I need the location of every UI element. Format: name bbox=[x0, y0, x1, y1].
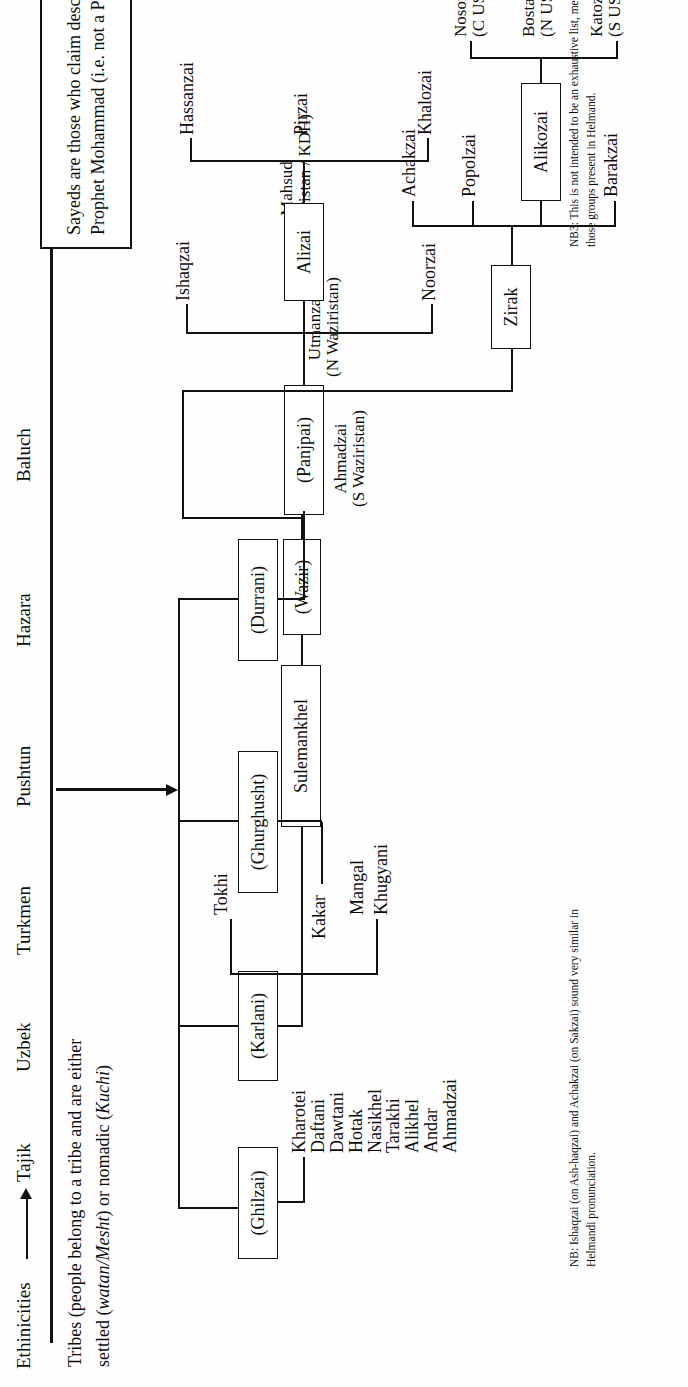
panjpai-bracket bbox=[186, 333, 432, 335]
alizai-out bbox=[303, 161, 305, 203]
node-ghurghusht-label: (Ghurghusht) bbox=[248, 774, 269, 871]
ethnicity-pushtun: Pushtun bbox=[14, 746, 34, 807]
leaf-andar: Andar bbox=[422, 1079, 441, 1153]
alikozai-child-katozai-note: (S USV) bbox=[606, 0, 624, 37]
ethnicities-arrow-line bbox=[26, 1197, 28, 1259]
leaf-tarakhi: Tarakhi bbox=[384, 1079, 403, 1153]
ghurghusht-arm bbox=[321, 822, 323, 884]
node-zirak[interactable]: Zirak bbox=[491, 265, 531, 349]
tribes-caption-end: ) bbox=[93, 1065, 113, 1071]
node-alizai-label: Alizai bbox=[294, 230, 315, 274]
leaf-noorzai: Noorzai bbox=[420, 243, 439, 301]
node-durrani[interactable]: (Durrani) bbox=[238, 539, 278, 661]
footnote-nb3-line2: those groups present in Helmand. bbox=[583, 0, 600, 247]
wazir-child-ahmadzai-name: Ahmadzai bbox=[332, 410, 350, 507]
footnote-nb3: NB3: This is not intended to be an exhau… bbox=[566, 0, 599, 247]
footnote-nb3-line1: NB3: This is not intended to be an exhau… bbox=[566, 0, 583, 247]
node-wazir-label: (Wazir) bbox=[292, 560, 313, 615]
ghilzai-children-list: Kharotei Daftani Dawtani Hotak Nasikhel … bbox=[290, 1079, 460, 1153]
node-zirak-label: Zirak bbox=[501, 288, 522, 327]
karlani-right-arm bbox=[230, 919, 232, 975]
node-wazir[interactable]: (Wazir) bbox=[283, 539, 321, 635]
ghurghusht-drop bbox=[278, 821, 322, 823]
zirak-feed-drop bbox=[182, 391, 512, 393]
alizai-bracket bbox=[190, 161, 428, 163]
leaf-dawtani: Dawtani bbox=[328, 1079, 347, 1153]
durrani-bus bbox=[303, 518, 305, 600]
karlani-right-tick bbox=[230, 974, 302, 976]
footnote-nb-line2: Helmandi pronunciation. bbox=[583, 909, 600, 1267]
zirak-feed bbox=[182, 391, 184, 519]
trunk-drop-ghurghusht bbox=[178, 821, 238, 823]
node-panjpai-label: (Panjpai) bbox=[294, 417, 315, 483]
leaf-pirzai: Pirzai bbox=[292, 93, 311, 135]
node-karlani[interactable]: (Karlani) bbox=[238, 971, 278, 1081]
footnote-nb: NB: Ishaqzai (on Ash-haqzai) and Achakza… bbox=[566, 909, 599, 1267]
node-ghurghusht[interactable]: (Ghurghusht) bbox=[238, 751, 278, 893]
leaf-kharotei: Kharotei bbox=[290, 1079, 309, 1153]
leaf-tokhi: Tokhi bbox=[212, 873, 231, 915]
leaf-mangal: Mangal bbox=[348, 860, 367, 915]
sayeds-note-line1: Sayeds are those who claim descent from … bbox=[65, 0, 84, 235]
leaf-ishaqzai: Ishaqzai bbox=[174, 241, 193, 301]
ethnicity-baluch: Baluch bbox=[14, 428, 34, 482]
alizai-arm-top bbox=[190, 138, 192, 162]
node-alikozai-label: Alikozai bbox=[531, 111, 552, 173]
karlani-left-tick bbox=[301, 974, 377, 976]
durrani-split bbox=[182, 518, 304, 520]
karlani-left-arm bbox=[376, 919, 378, 975]
alikozai-child-nosozai-note: (C USV) bbox=[470, 0, 488, 37]
wazir-child-utmanzai-note: (N Waziristan) bbox=[324, 277, 342, 377]
pushtun-root-arrow-line bbox=[56, 788, 168, 791]
trunk-drop-ghilzai bbox=[178, 1208, 238, 1210]
zirak-arm-achakzai bbox=[412, 201, 414, 227]
panjpai-arm-top bbox=[186, 304, 188, 334]
ethnicity-turkmen: Turkmen bbox=[14, 886, 34, 955]
leaf-khugyani: Khugyani bbox=[372, 844, 391, 915]
wazir-child-ahmadzai: Ahmadzai (S Waziristan) bbox=[332, 410, 368, 507]
node-alikozai[interactable]: Alikozai bbox=[521, 83, 561, 201]
node-ghilzai-label: (Ghilzai) bbox=[248, 1171, 269, 1236]
node-panjpai[interactable]: (Panjpai) bbox=[284, 385, 324, 515]
leaf-ahmadzai-ghilzai: Ahmadzai bbox=[441, 1079, 460, 1153]
zirak-arm-popolzai bbox=[472, 201, 474, 227]
leaf-barakzai: Barakzai bbox=[602, 133, 621, 197]
leaf-popolzai: Popolzai bbox=[460, 134, 479, 197]
alikozai-child-nosozai: Nosozai (C USV) bbox=[452, 0, 488, 37]
leaf-hassanzai: Hassanzai bbox=[178, 62, 197, 135]
tribes-caption-watan: watan/Mesht bbox=[93, 1217, 113, 1310]
node-ghilzai[interactable]: (Ghilzai) bbox=[238, 1147, 278, 1259]
tribes-caption-settled: settled ( bbox=[93, 1310, 113, 1367]
alikozai-child-bostanzai-name: Bostanzai bbox=[520, 0, 538, 37]
trunk-drop-karlani bbox=[178, 1026, 238, 1028]
trunk-drop-durrani bbox=[178, 599, 238, 601]
sayeds-note-line2: Prophet Mohammad (i.e. not a Pushtun tri… bbox=[89, 0, 108, 235]
zirak-in bbox=[511, 348, 513, 392]
node-sulemankhel-label: Sulemankhel bbox=[291, 699, 312, 793]
panjpai-arm-bottom bbox=[431, 304, 433, 334]
alizai-in bbox=[303, 300, 305, 334]
alikozai-arm-top bbox=[470, 41, 472, 59]
alizai-arm-bottom bbox=[427, 138, 429, 162]
ethnicity-hazara: Hazara bbox=[14, 593, 34, 647]
tribes-caption-line2: settled (watan/Mesht) or nomadic (Kuchi) bbox=[94, 1065, 113, 1367]
leaf-alikhel: Alikhel bbox=[403, 1079, 422, 1153]
leaf-daftani: Daftani bbox=[309, 1079, 328, 1153]
node-sulemankhel[interactable]: Sulemankhel bbox=[281, 665, 321, 827]
alikozai-child-bostanzai-note: (N USV) bbox=[538, 0, 556, 37]
zirak-arm-barakzai bbox=[614, 201, 616, 227]
node-alizai[interactable]: Alizai bbox=[284, 203, 324, 301]
diagram-canvas: Ethinicities Tajik Uzbek Turkmen Pushtun… bbox=[0, 0, 688, 1387]
alikozai-child-bostanzai: Bostanzai (N USV) bbox=[520, 0, 556, 37]
footnote-nb-line1: NB: Ishaqzai (on Ash-haqzai) and Achakza… bbox=[566, 909, 583, 1267]
zirak-out bbox=[511, 225, 513, 265]
karlani-stem bbox=[278, 1026, 302, 1028]
alikozai-child-nosozai-name: Nosozai bbox=[452, 0, 470, 37]
ghilzai-connector bbox=[303, 1157, 305, 1203]
leaf-khalozai: Khalozai bbox=[416, 70, 435, 135]
tribes-caption-kuchi: Kuchi bbox=[93, 1071, 113, 1114]
node-karlani-label: (Karlani) bbox=[248, 993, 269, 1059]
zirak-arm-alikozai bbox=[540, 201, 542, 227]
tribes-caption-mid: ) or nomadic ( bbox=[93, 1114, 113, 1216]
ethnicities-axis-label: Ethinicities bbox=[14, 1282, 34, 1369]
